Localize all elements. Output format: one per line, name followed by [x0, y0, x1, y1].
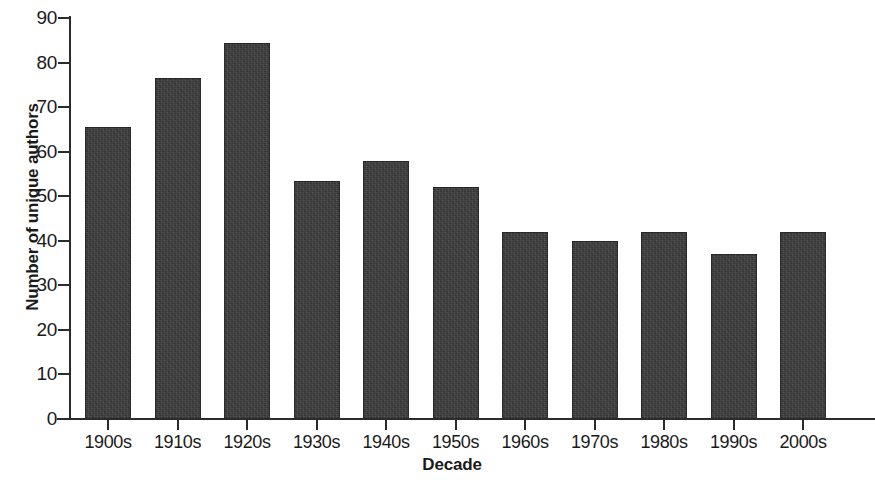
y-axis-tick-label: 10 [11, 364, 57, 383]
x-axis-tick [802, 419, 804, 430]
y-axis-tick-label: 70 [11, 97, 57, 116]
x-axis-tick [524, 419, 526, 430]
x-axis-tick [594, 419, 596, 430]
x-axis-tick-label: 1960s [485, 432, 565, 452]
y-axis-line [69, 16, 71, 420]
x-axis-tick-label: 1970s [555, 432, 635, 452]
bar [433, 187, 479, 419]
x-axis-tick-label: 1920s [207, 432, 287, 452]
x-axis-tick [455, 419, 457, 430]
bar-chart-figure: Number of unique authors 010203040506070… [0, 0, 875, 480]
x-axis-tick-label: 1930s [277, 432, 357, 452]
x-axis-tick-label: 1940s [346, 432, 426, 452]
x-axis-tick-label: 1980s [624, 432, 704, 452]
y-axis-tick-label: 40 [11, 231, 57, 250]
y-axis-tick [58, 62, 70, 64]
y-axis-tick [58, 240, 70, 242]
y-axis-tick-label: 60 [11, 142, 57, 161]
y-axis-tick-label: 0 [11, 409, 57, 428]
x-axis-tick-label: 2000s [763, 432, 843, 452]
y-axis-tick [58, 418, 70, 420]
y-axis-tick [58, 17, 70, 19]
bar [294, 181, 340, 419]
y-axis-tick-label: 50 [11, 186, 57, 205]
bar [155, 78, 201, 419]
y-axis-tick [58, 151, 70, 153]
x-axis-tick [663, 419, 665, 430]
x-axis-tick [107, 419, 109, 430]
y-axis-tick [58, 284, 70, 286]
bar [224, 43, 270, 419]
bar [711, 254, 757, 419]
y-axis-tick-label: 30 [11, 275, 57, 294]
y-axis-tick-label: 90 [11, 8, 57, 27]
bar [363, 161, 409, 419]
x-axis-tick-label: 1990s [694, 432, 774, 452]
bar [780, 232, 826, 419]
x-axis-title: Decade [0, 455, 875, 475]
y-axis-tick-label: 80 [11, 53, 57, 72]
x-axis-tick [733, 419, 735, 430]
bar [641, 232, 687, 419]
x-axis-tick-label: 1900s [68, 432, 148, 452]
y-axis-tick [58, 106, 70, 108]
y-axis-tick [58, 373, 70, 375]
x-axis-tick [316, 419, 318, 430]
bar [85, 127, 131, 419]
x-axis-tick [385, 419, 387, 430]
y-axis-tick-label: 20 [11, 320, 57, 339]
y-axis-tick [58, 329, 70, 331]
x-axis-tick-label: 1950s [416, 432, 496, 452]
x-axis-tick-label: 1910s [138, 432, 218, 452]
bar [572, 241, 618, 419]
y-axis-tick [58, 195, 70, 197]
x-axis-tick [177, 419, 179, 430]
bar [502, 232, 548, 419]
x-axis-tick [246, 419, 248, 430]
